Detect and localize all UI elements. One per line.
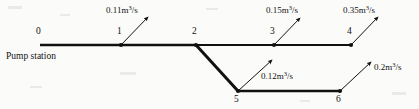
node-label-6: 6 <box>336 95 341 105</box>
network-graphics <box>0 0 419 109</box>
node-marker-4 <box>349 43 353 47</box>
demand-arrows-layer <box>121 17 378 91</box>
node-marker-2 <box>194 43 198 47</box>
flow-label-demand-node-3: 0.15m3/s <box>266 6 298 15</box>
node-label-0: 0 <box>36 27 41 37</box>
arrow-demand-node-1 <box>121 17 148 45</box>
pipe-2-5 <box>196 45 238 91</box>
flow-unit-exponent: 3 <box>366 4 369 11</box>
node-label-4: 4 <box>347 27 352 37</box>
node-marker-1 <box>119 43 123 47</box>
pipe-network-figure: 01234560.11m3/s0.15m3/s0.35m3/s0.12m3/s0… <box>0 0 419 109</box>
flow-unit-exponent: 3 <box>128 4 131 11</box>
flow-unit-base: m <box>359 5 366 15</box>
flow-unit-tail: /s <box>396 62 402 72</box>
node-label-5: 5 <box>234 95 239 105</box>
flow-value: 0.11 <box>106 5 121 15</box>
node-marker-6 <box>338 89 342 93</box>
node-label-3: 3 <box>270 27 275 37</box>
flow-unit-tail: /s <box>369 5 375 15</box>
arrow-demand-node-4 <box>351 17 378 45</box>
flow-unit-exponent: 3 <box>289 4 292 11</box>
node-markers-layer <box>119 43 353 93</box>
flow-label-demand-node-5: 0.12m3/s <box>261 72 293 81</box>
pipes-layer <box>40 45 351 91</box>
flow-value: 0.2 <box>374 62 385 72</box>
node-label-1: 1 <box>117 27 122 37</box>
flow-label-demand-node-1: 0.11m3/s <box>106 6 138 15</box>
flow-unit-exponent: 3 <box>392 61 395 68</box>
flow-unit-exponent: 3 <box>284 70 287 77</box>
flow-value: 0.15 <box>266 5 282 15</box>
node-marker-3 <box>272 43 276 47</box>
flow-value: 0.12 <box>261 71 277 81</box>
flow-unit-tail: /s <box>292 5 298 15</box>
flow-unit-tail: /s <box>287 71 293 81</box>
flow-unit-base: m <box>277 71 284 81</box>
node-label-2: 2 <box>192 27 197 37</box>
arrow-demand-node-3 <box>274 18 300 45</box>
flow-unit-tail: /s <box>132 5 138 15</box>
flow-label-demand-node-4: 0.35m3/s <box>343 6 375 15</box>
arrow-demand-node-6 <box>340 62 371 91</box>
flow-unit-base: m <box>282 5 289 15</box>
node-marker-5 <box>236 89 240 93</box>
flow-label-demand-node-6: 0.2m3/s <box>374 63 402 72</box>
pump-station-label: Pump station <box>6 52 56 62</box>
flow-value: 0.35 <box>343 5 359 15</box>
